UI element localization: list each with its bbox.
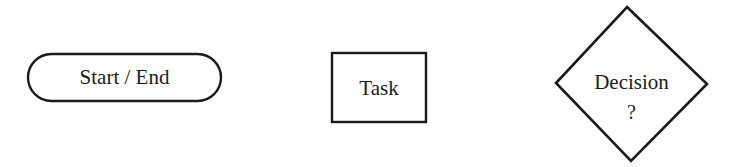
task-label: Task (331, 78, 427, 99)
decision-question-mark: ? (556, 102, 707, 122)
terminator-label: Start / End (27, 67, 222, 88)
decision-label: Decision (556, 72, 707, 93)
